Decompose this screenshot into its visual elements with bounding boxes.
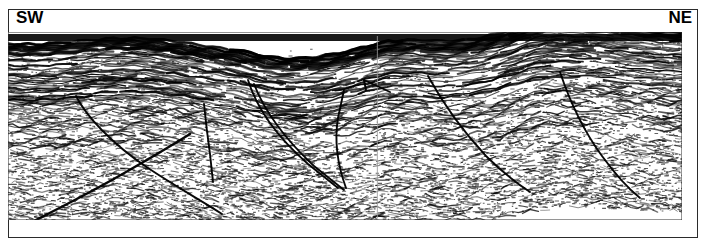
orientation-label-sw: SW (16, 9, 43, 26)
reflector-trace (665, 44, 682, 45)
reflector-trace (382, 165, 386, 166)
reflector-trace (60, 162, 65, 163)
reflector-trace (579, 170, 594, 171)
reflector-trace (368, 157, 373, 158)
reflector-trace (672, 197, 676, 198)
reflector-trace (202, 208, 207, 209)
reflector-trace (519, 165, 535, 166)
reflector-trace (107, 174, 112, 175)
seismic-traces-canvas (8, 32, 682, 220)
reflector-trace (676, 182, 682, 183)
reflector-trace (395, 164, 402, 165)
reflector-trace (547, 155, 558, 156)
orientation-label-ne: NE (668, 9, 692, 26)
reflector-trace (248, 153, 263, 154)
reflector-trace (132, 149, 141, 150)
reflector-trace (170, 197, 175, 198)
reflector-trace (312, 216, 323, 217)
reflector-trace (116, 170, 126, 171)
seismic-figure: SW NE (0, 0, 708, 248)
reflector-trace (503, 151, 508, 152)
top-dark-reflector-band (8, 34, 682, 41)
seismic-section-image (8, 32, 682, 220)
reflector-trace (675, 60, 682, 61)
reflector-trace (563, 66, 586, 67)
reflector-trace (513, 163, 518, 164)
reflector-trace (17, 182, 25, 183)
reflector-trace (660, 162, 668, 163)
reflector-trace (453, 167, 464, 168)
reflector-trace (473, 211, 485, 212)
